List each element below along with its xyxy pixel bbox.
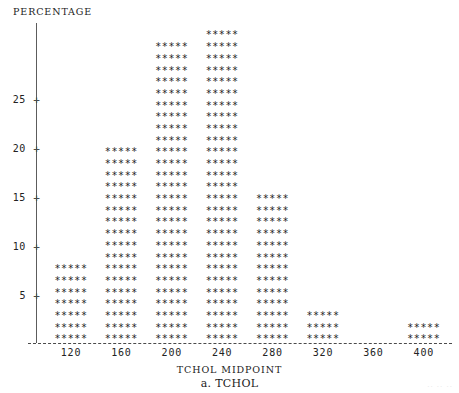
bars-layer: ****************************************… xyxy=(0,0,459,393)
star-row: ***** xyxy=(256,240,289,252)
histogram-bar-160: ****************************************… xyxy=(98,146,144,345)
star-row: ***** xyxy=(155,111,188,123)
star-row: ***** xyxy=(206,205,239,217)
star-row: ***** xyxy=(155,158,188,170)
star-row: ***** xyxy=(206,41,239,53)
star-row: ***** xyxy=(256,275,289,287)
star-row: ***** xyxy=(155,170,188,182)
star-row: ***** xyxy=(105,322,138,334)
star-row: ***** xyxy=(105,287,138,299)
histogram-bar-280: ****************************************… xyxy=(250,193,296,345)
star-row: ***** xyxy=(306,310,339,322)
star-row: ***** xyxy=(155,100,188,112)
histogram-bar-200: ****************************************… xyxy=(149,41,195,345)
star-row: ***** xyxy=(206,287,239,299)
star-row: ***** xyxy=(256,287,289,299)
star-row: ***** xyxy=(105,228,138,240)
star-row: ***** xyxy=(256,252,289,264)
star-row: ***** xyxy=(256,263,289,275)
star-row: ***** xyxy=(407,322,440,334)
star-row: ***** xyxy=(155,76,188,88)
star-row: ***** xyxy=(206,263,239,275)
x-axis-tick-label-160: 160 xyxy=(98,347,144,359)
x-axis-tick-label-360: 360 xyxy=(350,347,396,359)
star-row: ***** xyxy=(155,53,188,65)
star-row: ***** xyxy=(105,193,138,205)
star-row: ***** xyxy=(105,275,138,287)
scan-artifact: ·· ·· ·· xyxy=(427,383,453,391)
x-axis-tick-label-240: 240 xyxy=(199,347,245,359)
star-row: ***** xyxy=(155,181,188,193)
star-row: ***** xyxy=(206,76,239,88)
star-row: ***** xyxy=(105,298,138,310)
star-row: ***** xyxy=(206,158,239,170)
star-row: ***** xyxy=(105,252,138,264)
x-axis-tick-label-200: 200 xyxy=(149,347,195,359)
star-row: ***** xyxy=(105,158,138,170)
star-row: ***** xyxy=(155,275,188,287)
star-row: ***** xyxy=(256,205,289,217)
x-axis-tick-label-280: 280 xyxy=(250,347,296,359)
star-row: ***** xyxy=(206,298,239,310)
star-row: ***** xyxy=(206,100,239,112)
star-row: ***** xyxy=(54,310,87,322)
star-row: ***** xyxy=(306,322,339,334)
star-row: ***** xyxy=(256,298,289,310)
star-row: ***** xyxy=(155,287,188,299)
figure-caption: a. TCHOL xyxy=(0,377,459,390)
star-row: ***** xyxy=(105,205,138,217)
star-row: ***** xyxy=(105,216,138,228)
star-row: ***** xyxy=(155,216,188,228)
star-row: ***** xyxy=(206,88,239,100)
star-row: ***** xyxy=(206,216,239,228)
star-row: ***** xyxy=(206,275,239,287)
star-row: ***** xyxy=(256,216,289,228)
star-row: ***** xyxy=(206,181,239,193)
histogram-bar-320: *************** xyxy=(300,310,346,345)
star-row: ***** xyxy=(206,170,239,182)
star-row: ***** xyxy=(54,298,87,310)
star-row: ***** xyxy=(206,146,239,158)
histogram-bar-240: ****************************************… xyxy=(199,29,245,345)
star-row: ***** xyxy=(256,193,289,205)
star-row: ***** xyxy=(206,135,239,147)
x-axis-title: TCHOL MIDPOINT xyxy=(0,364,459,375)
star-row: ***** xyxy=(155,135,188,147)
star-row: ***** xyxy=(206,193,239,205)
star-row: ***** xyxy=(256,322,289,334)
star-row: ***** xyxy=(54,263,87,275)
star-row: ***** xyxy=(155,146,188,158)
star-row: ***** xyxy=(155,310,188,322)
histogram-figure: PERCENTAGE +5+10+15+20+25 **************… xyxy=(0,0,459,393)
star-row: ***** xyxy=(256,310,289,322)
plot-area: +5+10+15+20+25 *************************… xyxy=(0,0,459,393)
star-row: ***** xyxy=(206,240,239,252)
star-row: ***** xyxy=(155,263,188,275)
star-row: ***** xyxy=(54,322,87,334)
star-row: ***** xyxy=(206,310,239,322)
star-row: ***** xyxy=(105,181,138,193)
star-row: ***** xyxy=(155,88,188,100)
x-axis-tick-label-120: 120 xyxy=(48,347,94,359)
star-row: ***** xyxy=(155,298,188,310)
star-row: ***** xyxy=(206,322,239,334)
star-row: ***** xyxy=(155,65,188,77)
x-axis-tick-label-320: 320 xyxy=(300,347,346,359)
star-row: ***** xyxy=(54,275,87,287)
star-row: ***** xyxy=(105,170,138,182)
star-row: ***** xyxy=(155,252,188,264)
star-row: ***** xyxy=(256,228,289,240)
star-row: ***** xyxy=(206,252,239,264)
star-row: ***** xyxy=(206,65,239,77)
star-row: ***** xyxy=(206,53,239,65)
star-row: ***** xyxy=(155,322,188,334)
star-row: ***** xyxy=(206,29,239,41)
star-row: ***** xyxy=(155,41,188,53)
histogram-bar-400: ********** xyxy=(401,322,447,345)
star-row: ***** xyxy=(105,240,138,252)
star-row: ***** xyxy=(155,205,188,217)
star-row: ***** xyxy=(54,287,87,299)
star-row: ***** xyxy=(105,146,138,158)
star-row: ***** xyxy=(155,193,188,205)
star-row: ***** xyxy=(155,123,188,135)
